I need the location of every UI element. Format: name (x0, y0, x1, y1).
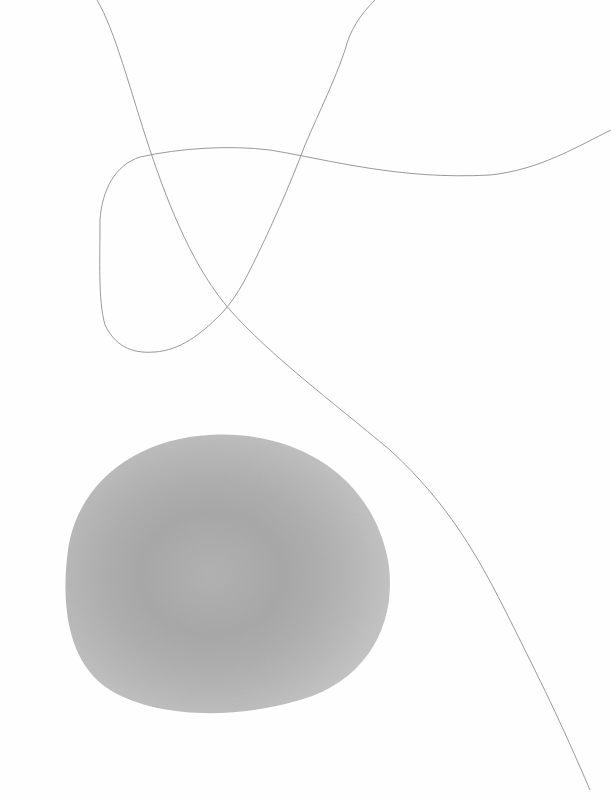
line-loop (100, 0, 611, 352)
watercolor-circle (65, 435, 390, 714)
artwork-svg (0, 0, 611, 799)
artwork-canvas (0, 0, 611, 799)
